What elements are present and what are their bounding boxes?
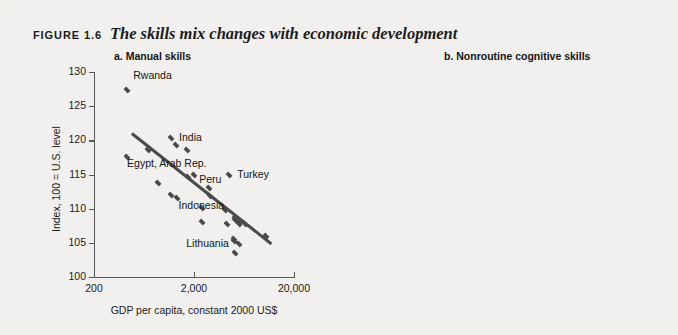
trend-line-a [131, 132, 272, 245]
y-axis-title-a: Index, 100 = U.S. level [50, 126, 62, 232]
data-point [224, 221, 231, 228]
x-tick-a-1 [194, 272, 195, 277]
point-label-peru: Peru [199, 173, 221, 185]
point-label-india: India [179, 131, 202, 143]
data-point [124, 86, 131, 93]
data-point [184, 146, 191, 153]
x-tick-a-2 [294, 272, 295, 277]
data-point [241, 220, 248, 227]
x-tick-label-a-1: 2,000 [181, 282, 207, 294]
data-point [155, 180, 162, 187]
panel-nonroutine-cognitive-skills: b. Nonroutine cognitive skills Index, 10… [346, 6, 676, 323]
data-point [168, 135, 175, 142]
y-tick-label-a-120: 120 [68, 133, 86, 145]
y-tick-label-a-110: 110 [69, 202, 86, 214]
figure-container: FIGURE 1.6The skills mix changes with ec… [0, 0, 678, 335]
data-point [235, 240, 242, 247]
y-tick-a-130: 130 [89, 72, 94, 73]
y-tick-a-105: 105 [89, 243, 94, 244]
y-tick-a-125: 125 [89, 106, 94, 107]
point-label-turkey: Turkey [237, 168, 269, 180]
x-axis-title-a: GDP per capita, constant 2000 US$ [111, 304, 278, 316]
figure-paper: FIGURE 1.6The skills mix changes with ec… [6, 6, 672, 323]
panel-a-title: a. Manual skills [114, 50, 191, 62]
y-tick-a-110: 110 [89, 209, 94, 210]
y-tick-label-a-130: 130 [68, 65, 86, 77]
plot-area-manual-skills: Index, 100 = U.S. level GDP per capita, … [94, 72, 294, 284]
data-point [226, 171, 233, 178]
panel-manual-skills: a. Manual skills Index, 100 = U.S. level… [6, 6, 354, 323]
panel-b-title: b. Nonroutine cognitive skills [444, 50, 590, 62]
point-label-rwanda: Rwanda [133, 69, 172, 81]
y-tick-label-a-125: 125 [68, 99, 86, 111]
y-tick-label-a-115: 115 [69, 168, 86, 180]
x-axis-line-a [94, 277, 295, 278]
data-point [199, 218, 206, 225]
point-label-lithuania: Lithuania [186, 237, 229, 249]
y-tick-a-120: 120 [89, 140, 94, 141]
y-tick-label-a-100: 100 [68, 270, 86, 282]
x-tick-label-a-0: 200 [85, 282, 103, 294]
data-point [232, 250, 239, 257]
y-tick-a-115: 115 [89, 175, 94, 176]
y-axis-line-a [94, 72, 95, 278]
x-tick-a-0 [94, 272, 95, 277]
point-label-egypt-arab-rep: Egypt, Arab Rep. [127, 157, 206, 169]
x-tick-label-a-2: 20,000 [278, 282, 310, 294]
point-label-indonesia: Indonesia [179, 199, 225, 211]
y-tick-label-a-105: 105 [68, 236, 86, 248]
y-tick-a-100: 100 [89, 277, 94, 278]
